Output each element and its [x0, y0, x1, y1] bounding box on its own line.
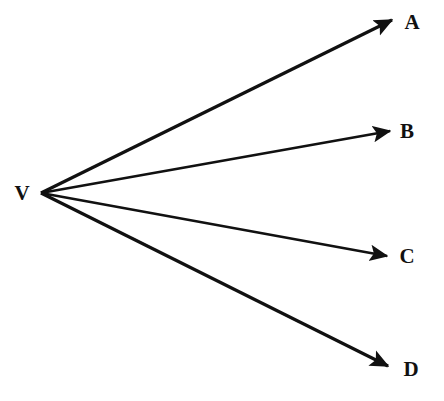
vector-diagram-canvas — [0, 0, 444, 401]
ray-v-to-d — [41, 193, 388, 366]
endpoint-label-b: B — [400, 121, 414, 142]
ray-v-to-c — [41, 193, 387, 256]
endpoint-label-c: C — [399, 246, 414, 267]
vector-diagram: V A B C D — [0, 0, 444, 401]
ray-v-to-b — [41, 131, 390, 193]
ray-v-to-a — [41, 20, 392, 193]
endpoint-label-a: A — [404, 12, 419, 33]
endpoint-label-d: D — [403, 359, 418, 380]
vertex-label-v: V — [14, 183, 29, 204]
